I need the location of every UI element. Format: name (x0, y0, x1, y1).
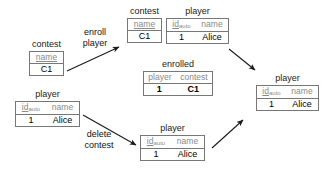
column-id-subscript: auto (269, 88, 281, 99)
table-header-row: idauto name (16, 102, 79, 114)
table-contest-left: contest name C1 (29, 39, 64, 76)
table-caption: player (166, 6, 229, 17)
table-row: 1 Alice (167, 31, 228, 43)
table-cell: C1 (30, 64, 63, 75)
table-header-cell: idauto (257, 86, 286, 98)
table-cell: Alice (171, 149, 204, 160)
table-header-cell: name (46, 102, 79, 114)
table-header-row: name (128, 19, 161, 30)
table-cell: Alice (286, 99, 318, 110)
table-player-bottom: player idauto name 1 Alice (140, 123, 205, 161)
table-header-cell: name (171, 136, 204, 148)
table-caption: contest (127, 6, 162, 17)
table-row: C1 (30, 63, 63, 75)
table-row: 1 C1 (144, 83, 212, 95)
table-header-cell: idauto (167, 19, 196, 31)
table-row: 1 Alice (141, 148, 204, 160)
column-id-subscript: auto (179, 21, 191, 32)
table-header-cell: name (128, 19, 161, 30)
table-cell: 1 (16, 115, 46, 126)
table-enrolled: enrolled player contest 1 C1 (143, 59, 213, 96)
table-player-right: player idauto name 1 Alice (256, 73, 319, 111)
table-cell: 1 (257, 99, 286, 110)
table-player-top: player idauto name 1 Alice (166, 6, 229, 44)
table-box: idauto name 1 Alice (140, 135, 205, 161)
table-box: player contest 1 C1 (143, 71, 213, 96)
table-cell: Alice (46, 115, 79, 126)
table-header-cell: name (30, 52, 63, 63)
table-header-row: idauto name (141, 136, 204, 148)
edge-label-delete-contest: delete contest (73, 129, 125, 151)
edge-label-enroll-player: enroll player (72, 27, 118, 49)
table-header-row: name (30, 52, 63, 63)
arrow-enroll-to-result (229, 49, 255, 70)
column-id-subscript: auto (28, 104, 40, 115)
table-header-cell: contest (176, 72, 212, 83)
table-box: idauto name 1 Alice (256, 85, 319, 111)
table-header-row: idauto name (257, 86, 318, 98)
table-caption: enrolled (143, 59, 213, 70)
column-id-label: id (22, 102, 29, 112)
table-row: 1 Alice (16, 114, 79, 126)
table-header-cell: idauto (16, 102, 46, 114)
arrow-enroll-player (67, 47, 119, 71)
column-name-label: name (134, 19, 155, 29)
table-cell: 1 (144, 84, 175, 95)
table-box: idauto name 1 Alice (15, 101, 80, 127)
table-row: 1 Alice (257, 98, 318, 110)
table-caption: player (15, 89, 80, 100)
table-cell: C1 (128, 31, 161, 42)
table-cell: 1 (167, 32, 196, 43)
table-caption: player (256, 73, 319, 84)
table-header-row: player contest (144, 72, 212, 83)
table-box: idauto name 1 Alice (166, 18, 229, 44)
table-header-cell: idauto (141, 136, 171, 148)
table-header-row: idauto name (167, 19, 228, 31)
table-cell: 1 (141, 149, 171, 160)
table-player-left: player idauto name 1 Alice (15, 89, 80, 127)
column-id-label: id (147, 136, 154, 146)
edge-label-delete-contest-line2: contest (73, 140, 125, 151)
column-id-label: id (262, 86, 269, 96)
edge-label-enroll-player-line1: enroll (72, 27, 118, 38)
table-cell: C1 (175, 84, 212, 95)
edge-label-delete-contest-line1: delete (73, 129, 125, 140)
table-row: C1 (128, 30, 161, 42)
column-name-label: name (36, 52, 57, 62)
table-caption: player (140, 123, 205, 134)
table-contest-top: contest name C1 (127, 6, 162, 43)
edge-label-enroll-player-line2: player (72, 38, 118, 49)
table-header-cell: name (196, 19, 228, 31)
diagram-canvas: enroll player delete contest contest nam… (0, 0, 323, 172)
table-header-cell: name (286, 86, 318, 98)
table-header-cell: player (144, 72, 176, 83)
table-box: name C1 (127, 18, 162, 43)
arrow-delete-to-result (212, 120, 243, 148)
table-box: name C1 (29, 51, 64, 76)
column-id-label: id (172, 19, 179, 29)
column-id-subscript: auto (153, 138, 165, 149)
table-cell: Alice (196, 32, 228, 43)
table-caption: contest (29, 39, 64, 50)
